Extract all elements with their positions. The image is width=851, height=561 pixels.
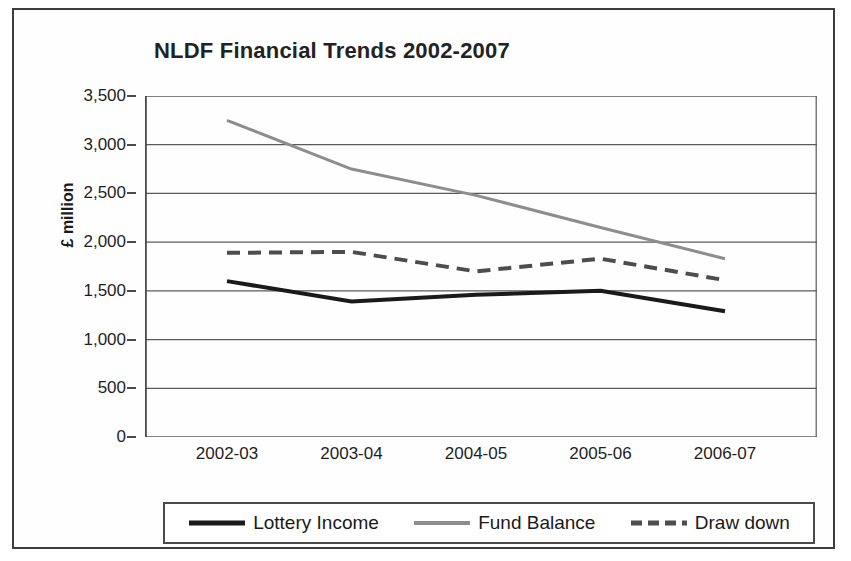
series-line-fund-balance — [227, 120, 725, 258]
y-axis-tick-labels: 05001,0001,5002,0002,5003,0003,500 — [50, 96, 136, 437]
y-axis-tick — [127, 290, 136, 292]
y-axis-tick — [127, 339, 136, 341]
y-axis-tick — [127, 144, 136, 146]
series-line-lottery-income — [227, 281, 725, 311]
y-tick-label: 2,500 — [83, 183, 126, 203]
legend-label: Fund Balance — [478, 512, 595, 534]
x-axis-tick-labels: 2002-032003-042004-052005-062006-07 — [145, 444, 817, 474]
plot-area — [145, 96, 817, 437]
chart-title: NLDF Financial Trends 2002-2007 — [154, 38, 510, 64]
y-tick-label: 2,000 — [83, 232, 126, 252]
x-tick-label: 2006-07 — [694, 444, 756, 464]
legend-item-draw-down[interactable]: Draw down — [630, 512, 790, 534]
legend-label: Draw down — [695, 512, 790, 534]
y-tick-label: 0 — [117, 427, 126, 447]
legend-item-fund-balance[interactable]: Fund Balance — [413, 512, 595, 534]
y-axis-tick — [127, 192, 136, 194]
legend-swatch-line — [188, 516, 246, 530]
x-tick-label: 2002-03 — [196, 444, 258, 464]
y-tick-label: 500 — [98, 378, 126, 398]
x-tick-label: 2004-05 — [445, 444, 507, 464]
y-tick-label: 1,000 — [83, 330, 126, 350]
x-tick-label: 2005-06 — [569, 444, 631, 464]
plot-svg — [145, 96, 817, 437]
y-axis-tick — [127, 241, 136, 243]
y-axis-tick — [127, 436, 136, 438]
legend-label: Lottery Income — [253, 512, 379, 534]
chart-page: NLDF Financial Trends 2002-2007 £ millio… — [0, 0, 851, 561]
y-tick-label: 3,000 — [83, 135, 126, 155]
legend-swatch-line — [413, 516, 471, 530]
y-tick-label: 3,500 — [83, 86, 126, 106]
y-axis-tick — [127, 387, 136, 389]
legend-swatch-line — [630, 516, 688, 530]
x-tick-label: 2003-04 — [320, 444, 382, 464]
chart-legend: Lottery IncomeFund BalanceDraw down — [163, 502, 815, 544]
series-line-draw-down — [227, 252, 725, 280]
figure-frame: NLDF Financial Trends 2002-2007 £ millio… — [12, 8, 835, 549]
y-axis-tick — [127, 95, 136, 97]
y-tick-label: 1,500 — [83, 281, 126, 301]
legend-item-lottery-income[interactable]: Lottery Income — [188, 512, 379, 534]
